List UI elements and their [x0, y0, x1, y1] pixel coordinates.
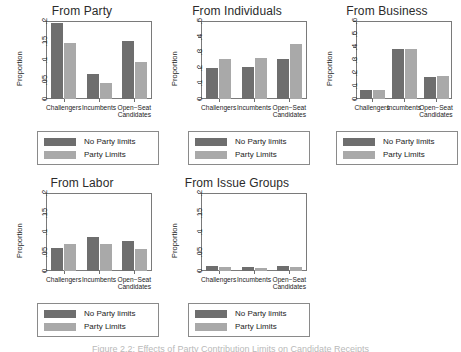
- bar: [100, 83, 112, 99]
- y-tick-label: .6: [350, 12, 359, 30]
- panel-title: From Business: [316, 4, 458, 18]
- x-tick-mark: [99, 271, 100, 274]
- bar: [122, 241, 134, 271]
- bar: [290, 44, 302, 99]
- chart-legend: No Party limitsParty Limits: [188, 303, 310, 337]
- bar: [290, 267, 302, 271]
- legend-item: No Party limits: [195, 136, 303, 147]
- x-tick-mark: [64, 99, 65, 102]
- y-tick-label: .1: [195, 74, 204, 92]
- x-tick-mark: [404, 99, 405, 102]
- x-tick-mark: [219, 271, 220, 274]
- chart-panel: From IndividualsProportion0.1.2.3.4.5Cha…: [161, 4, 313, 126]
- y-tick-label: .15: [40, 32, 49, 50]
- x-tick-mark: [99, 99, 100, 102]
- x-tick-mark: [254, 271, 255, 274]
- legend-swatch-light: [343, 151, 375, 159]
- x-tick-label: Open−Seat Candidates: [268, 276, 311, 291]
- legend-item: Party Limits: [195, 321, 303, 332]
- bar: [100, 244, 112, 271]
- y-axis-label: Proportion: [15, 51, 24, 86]
- y-tick-label: .05: [40, 243, 49, 261]
- y-tick-label: .15: [195, 204, 204, 222]
- x-tick-mark: [289, 99, 290, 102]
- y-tick-label: .5: [195, 12, 204, 30]
- y-tick-label: .05: [195, 243, 204, 261]
- x-tick-label: Open−Seat Candidates: [268, 104, 311, 119]
- bar: [64, 43, 76, 99]
- chart-legend: No Party limitsParty Limits: [37, 303, 159, 337]
- y-tick-label: .1: [40, 223, 49, 241]
- bar: [64, 244, 76, 271]
- legend-swatch-dark: [343, 138, 375, 146]
- y-axis-label: Proportion: [170, 51, 179, 86]
- y-axis-label: Proportion: [15, 223, 24, 258]
- bar: [373, 90, 385, 99]
- legend-label: Party Limits: [383, 150, 425, 159]
- legend-swatch-dark: [44, 138, 76, 146]
- legend-swatch-dark: [44, 310, 76, 318]
- bar: [122, 41, 134, 99]
- legend-item: Party Limits: [343, 149, 451, 160]
- legend-swatch-light: [195, 323, 227, 331]
- plot-area: [201, 193, 307, 271]
- bar: [87, 74, 99, 99]
- y-tick-label: .2: [40, 12, 49, 30]
- chart-legend: No Party limitsParty Limits: [188, 131, 310, 165]
- bar: [255, 268, 267, 271]
- legend-swatch-dark: [195, 310, 227, 318]
- legend-label: No Party limits: [235, 309, 287, 318]
- bar: [51, 23, 63, 99]
- y-tick-label: .4: [195, 28, 204, 46]
- bar: [219, 59, 231, 99]
- legend-label: Party Limits: [84, 150, 126, 159]
- bar: [242, 67, 254, 99]
- panel-title: From Individuals: [161, 4, 313, 18]
- bar: [51, 248, 63, 271]
- panel-title: From Issue Groups: [161, 176, 313, 190]
- x-tick-mark: [64, 271, 65, 274]
- x-tick-mark: [134, 271, 135, 274]
- legend-swatch-light: [44, 323, 76, 331]
- bar: [277, 266, 289, 271]
- chart-legend: No Party limitsParty Limits: [336, 131, 458, 165]
- legend-label: Party Limits: [235, 150, 277, 159]
- bar: [87, 237, 99, 271]
- chart-panel: From Issue GroupsProportion0.05.1.15.2Ch…: [161, 176, 313, 298]
- legend-swatch-light: [195, 151, 227, 159]
- bar: [277, 59, 289, 99]
- x-tick-mark: [254, 99, 255, 102]
- legend-item: No Party limits: [44, 136, 152, 147]
- y-tick-label: .1: [195, 223, 204, 241]
- bar: [424, 77, 436, 99]
- x-tick-label: Open−Seat Candidates: [113, 104, 156, 119]
- bar: [135, 249, 147, 271]
- legend-item: Party Limits: [44, 321, 152, 332]
- y-tick-label: .2: [195, 184, 204, 202]
- x-tick-mark: [372, 99, 373, 102]
- figure-caption: Figure 2.2: Effects of Party Contributio…: [0, 344, 461, 352]
- legend-item: No Party limits: [343, 136, 451, 147]
- bar: [206, 68, 218, 99]
- legend-label: Party Limits: [235, 322, 277, 331]
- legend-label: No Party limits: [383, 137, 435, 146]
- y-axis-label: Proportion: [170, 223, 179, 258]
- legend-label: No Party limits: [84, 309, 136, 318]
- chart-panel: From PartyProportion0.05.1.15.2Challenge…: [6, 4, 158, 126]
- y-tick-label: .2: [40, 184, 49, 202]
- chart-panel: From LaborProportion0.05.1.15.2Challenge…: [6, 176, 158, 298]
- chart-panel: From BusinessProportion0.1.2.3.4.5.6Chal…: [316, 4, 458, 126]
- y-tick-label: .2: [195, 59, 204, 77]
- x-tick-label: Open−Seat Candidates: [113, 276, 156, 291]
- bar: [206, 266, 218, 271]
- y-tick-label: .1: [40, 51, 49, 69]
- legend-label: No Party limits: [235, 137, 287, 146]
- bar: [255, 58, 267, 99]
- legend-item: Party Limits: [195, 149, 303, 160]
- legend-swatch-dark: [195, 138, 227, 146]
- legend-item: No Party limits: [44, 308, 152, 319]
- y-tick-label: .05: [40, 71, 49, 89]
- legend-label: No Party limits: [84, 137, 136, 146]
- legend-label: Party Limits: [84, 322, 126, 331]
- bar: [242, 267, 254, 271]
